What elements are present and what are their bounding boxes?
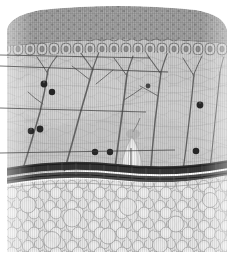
edge-vignette	[0, 0, 234, 266]
histology-figure: Histological section of skin Stratified …	[0, 0, 234, 266]
bottom-margin-mask	[0, 253, 234, 266]
right-margin-mask	[228, 0, 234, 266]
histology-illustration	[0, 0, 234, 266]
